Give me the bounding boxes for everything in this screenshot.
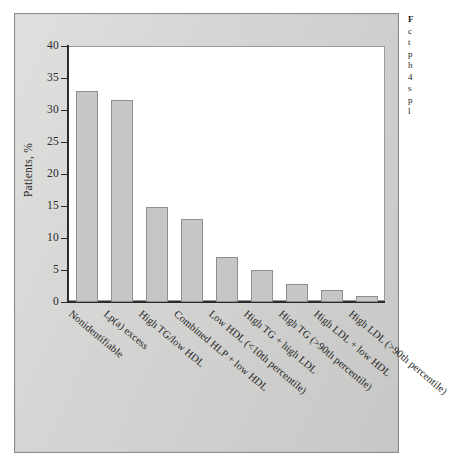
y-tick-label: 40 <box>19 40 59 52</box>
y-tick-mark <box>61 174 67 175</box>
y-tick-mark <box>61 238 67 239</box>
caption-line: p <box>408 49 426 61</box>
caption-line: 4 <box>408 72 426 84</box>
y-tick-mark <box>61 270 67 271</box>
y-tick-mark <box>61 206 67 207</box>
caption-line: c <box>408 26 426 38</box>
bar <box>251 270 273 302</box>
figure-caption-column: Fctph4spl <box>408 14 426 134</box>
caption-line: t <box>408 37 426 49</box>
bar <box>356 296 378 302</box>
figure-panel: 0510152025303540 Patients, % Nonidentifi… <box>14 13 399 453</box>
bar <box>286 284 308 302</box>
y-tick-mark <box>61 78 67 79</box>
y-tick-mark <box>61 110 67 111</box>
caption-line: p <box>408 95 426 107</box>
caption-line: h <box>408 60 426 72</box>
y-axis-ticks: 0510152025303540 <box>15 14 59 454</box>
caption-line: F <box>408 14 426 26</box>
bar <box>181 219 203 302</box>
caption-line: l <box>408 106 426 118</box>
y-tick-label: 0 <box>19 296 59 308</box>
bar <box>321 290 343 302</box>
bars-layer <box>69 46 384 302</box>
bar <box>111 100 133 302</box>
y-tick-label: 5 <box>19 264 59 276</box>
y-axis-title: Patients, % <box>22 143 34 197</box>
y-tick-label: 15 <box>19 200 59 212</box>
bar <box>146 207 168 302</box>
bar <box>76 91 98 302</box>
y-tick-label: 30 <box>19 104 59 116</box>
y-tick-label: 10 <box>19 232 59 244</box>
caption-line: s <box>408 83 426 95</box>
x-axis-label: High TG/low HDL <box>136 308 206 369</box>
y-tick-mark <box>61 142 67 143</box>
y-tick-mark <box>61 46 67 47</box>
y-tick-label: 35 <box>19 72 59 84</box>
x-axis-labels: NonidentifiableLp(a) excessHigh TG/low H… <box>69 304 399 454</box>
bar <box>216 257 238 302</box>
y-tick-mark <box>61 302 67 303</box>
